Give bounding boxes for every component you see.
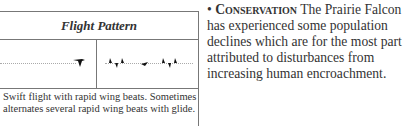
flight-path-line	[0, 63, 76, 64]
conservation-paragraph: • Conservation The Prairie Falcon has ex…	[207, 2, 409, 82]
flight-pattern-table: Flight Pattern Swift flight with rapid w…	[0, 11, 199, 126]
flight-illustration-row	[0, 40, 198, 89]
bullet: •	[207, 2, 212, 17]
conservation-heading: Conservation	[215, 2, 297, 17]
flight-pattern-header: Flight Pattern	[0, 12, 198, 40]
flight-path-alternating	[97, 40, 198, 88]
flight-path-straight	[0, 40, 97, 88]
bird-silhouette-icon	[73, 57, 87, 69]
bird-wingbeat-sequence-icon	[105, 56, 195, 70]
flight-description: Swift flight with rapid wing beats. Some…	[0, 89, 198, 115]
